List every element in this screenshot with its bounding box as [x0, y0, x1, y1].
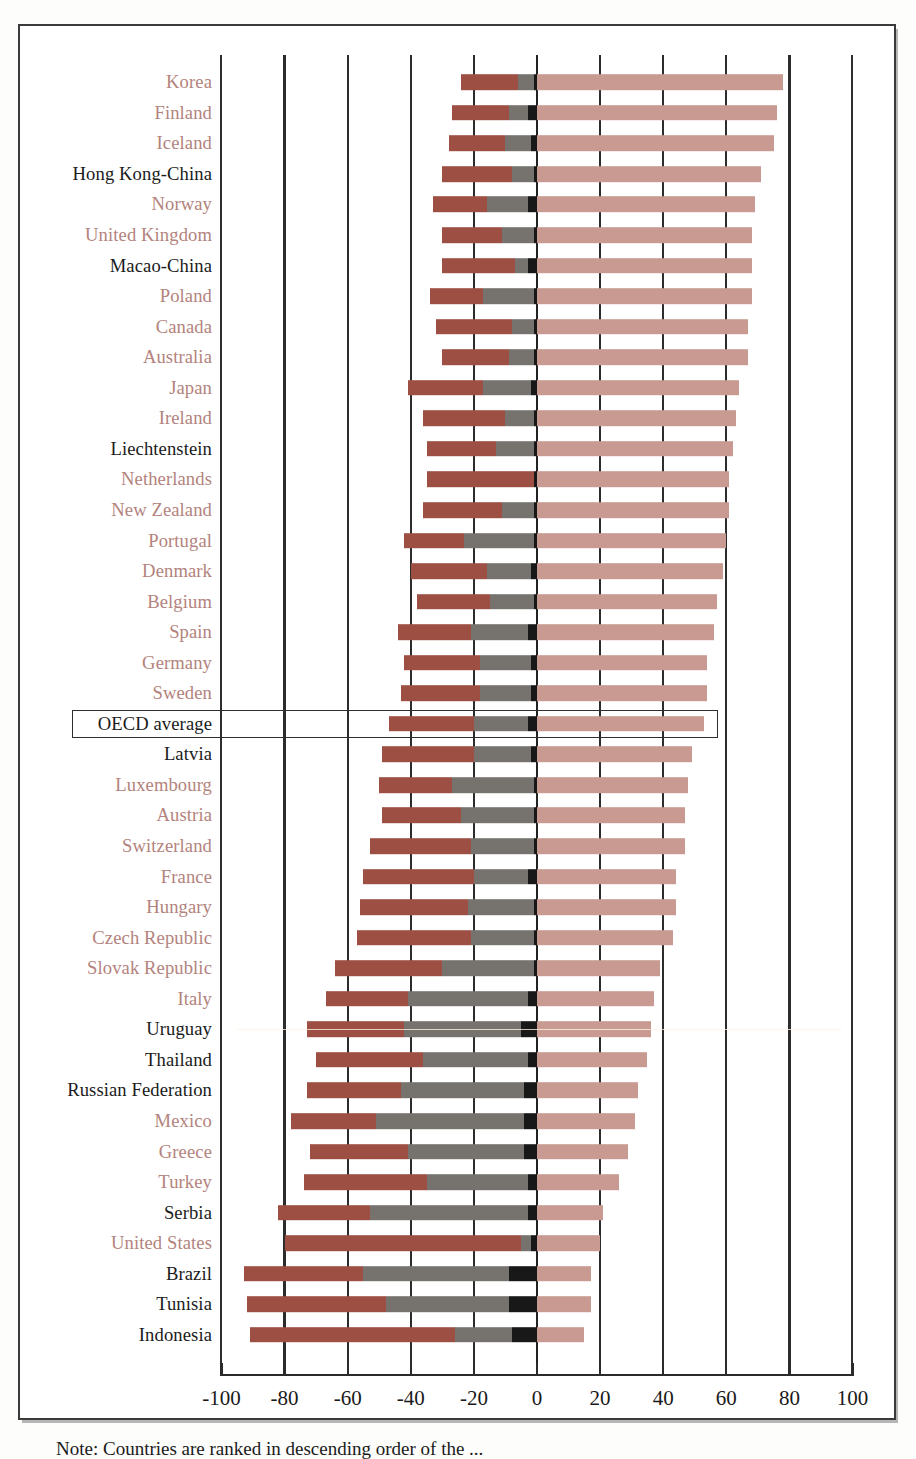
chart-row: Spain: [0, 617, 916, 648]
x-axis-tick-80: [788, 1363, 790, 1374]
chart-row: Korea: [0, 67, 916, 98]
bar-segment-pink: [537, 624, 714, 640]
bar-segment-pink: [537, 197, 755, 213]
country-label-germany: Germany: [142, 653, 212, 672]
bar-segment-dark-red: [310, 1144, 408, 1160]
x-axis-tick-label--80: -80: [271, 1386, 299, 1411]
chart-row: Luxembourg: [0, 770, 916, 801]
chart-row: Australia: [0, 342, 916, 373]
bar-segment-pink: [537, 686, 707, 702]
country-label-poland: Poland: [160, 287, 212, 306]
chart-row: France: [0, 861, 916, 892]
x-axis-tick-label-40: 40: [653, 1386, 674, 1411]
bar-segment-dark-red: [382, 808, 461, 824]
bar-segment-dark-red: [285, 1235, 522, 1251]
bar-segment-pink: [537, 747, 692, 763]
bar-segment-gray: [512, 319, 534, 335]
bar-segment-black: [524, 1113, 537, 1129]
bar-segment-dark-red: [427, 472, 534, 488]
bar-segment-pink: [537, 1144, 628, 1160]
bar-segment-gray: [423, 1052, 527, 1068]
bar-segment-dark-red: [442, 227, 502, 243]
bar-segment-pink: [537, 380, 739, 396]
bar-segment-pink: [537, 1022, 651, 1038]
country-label-uruguay: Uruguay: [146, 1020, 212, 1039]
chart-row: Norway: [0, 189, 916, 220]
country-label-macao-china: Macao-China: [110, 256, 212, 275]
bar-segment-black: [528, 869, 537, 885]
bar-segment-dark-red: [411, 563, 487, 579]
country-label-luxembourg: Luxembourg: [115, 776, 212, 795]
x-axis-tick-20: [599, 1363, 601, 1374]
bar-segment-pink: [537, 991, 654, 1007]
x-axis-tick--60: [347, 1363, 349, 1374]
bar-segment-pink: [537, 1174, 619, 1190]
bar-segment-gray: [427, 1174, 528, 1190]
bar-segment-dark-red: [326, 991, 408, 1007]
bar-segment-pink: [537, 258, 752, 274]
bar-segment-pink: [537, 930, 673, 946]
bar-segment-pink: [537, 1113, 635, 1129]
bar-segment-gray: [455, 1327, 512, 1343]
bar-segment-dark-red: [427, 441, 496, 457]
bar-segment-dark-red: [442, 349, 508, 365]
bar-segment-gray: [468, 899, 534, 915]
chart-row: Denmark: [0, 556, 916, 587]
chart-row: Turkey: [0, 1167, 916, 1198]
country-label-latvia: Latvia: [164, 745, 212, 764]
bar-segment-dark-red: [461, 75, 518, 91]
country-label-norway: Norway: [152, 195, 213, 214]
bar-segment-dark-red: [360, 899, 467, 915]
bar-segment-black: [528, 624, 537, 640]
bar-segment-dark-red: [382, 747, 473, 763]
x-axis-tick-label--20: -20: [460, 1386, 488, 1411]
country-label-denmark: Denmark: [142, 562, 212, 581]
bar-segment-gray: [509, 105, 528, 121]
bar-segment-dark-red: [417, 594, 490, 610]
bar-segment-gray: [502, 227, 534, 243]
country-label-russian-federation: Russian Federation: [67, 1081, 212, 1100]
country-label-spain: Spain: [169, 623, 212, 642]
country-label-united-states: United States: [111, 1234, 212, 1253]
x-axis-tick--80: [283, 1363, 285, 1374]
bar-segment-dark-red: [404, 655, 480, 671]
bar-segment-gray: [464, 533, 533, 549]
chart-row: Portugal: [0, 525, 916, 556]
bar-segment-pink: [537, 1297, 591, 1313]
country-label-hungary: Hungary: [146, 898, 212, 917]
bar-segment-gray: [471, 930, 534, 946]
chart-row: Liechtenstein: [0, 434, 916, 465]
bar-segment-pink: [537, 502, 729, 518]
chart-row: Hong Kong-China: [0, 159, 916, 190]
bar-segment-dark-red: [307, 1083, 402, 1099]
bar-segment-pink: [537, 563, 723, 579]
bar-segment-pink: [537, 349, 748, 365]
oecd-average-highlight-box: [72, 710, 718, 739]
bar-segment-pink: [537, 899, 676, 915]
chart-row: Slovak Republic: [0, 953, 916, 984]
bar-segment-dark-red: [304, 1174, 427, 1190]
chart-row: Germany: [0, 647, 916, 678]
bar-segment-dark-red: [316, 1052, 423, 1068]
bar-segment-dark-red: [401, 686, 480, 702]
bar-segment-pink: [537, 288, 752, 304]
bar-segment-gray: [474, 869, 528, 885]
country-label-serbia: Serbia: [164, 1203, 212, 1222]
country-label-portugal: Portugal: [148, 531, 212, 550]
x-axis-tick-label-60: 60: [716, 1386, 737, 1411]
x-axis-tick-label-80: 80: [779, 1386, 800, 1411]
chart-row: United Kingdom: [0, 220, 916, 251]
country-label-ireland: Ireland: [159, 409, 212, 428]
chart-row: Mexico: [0, 1106, 916, 1137]
chart-row: Macao-China: [0, 250, 916, 281]
x-axis-tick-label--100: -100: [202, 1386, 241, 1411]
country-label-finland: Finland: [154, 104, 212, 123]
bar-segment-pink: [537, 777, 688, 793]
bar-segment-gray: [483, 380, 530, 396]
x-axis-tick-100: [851, 1363, 853, 1374]
bar-segment-pink: [537, 808, 685, 824]
chart-row: Netherlands: [0, 464, 916, 495]
bar-segment-dark-red: [335, 960, 442, 976]
bar-segment-black: [528, 258, 537, 274]
figure-page: KoreaFinlandIcelandHong Kong-ChinaNorway…: [0, 0, 916, 1459]
